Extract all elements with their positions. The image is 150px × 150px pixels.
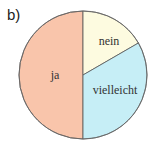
pie-chart: ja nein vielleicht <box>0 0 150 150</box>
label-vielleicht: vielleicht <box>93 83 138 97</box>
label-ja: ja <box>50 68 60 82</box>
label-nein: nein <box>99 34 120 48</box>
